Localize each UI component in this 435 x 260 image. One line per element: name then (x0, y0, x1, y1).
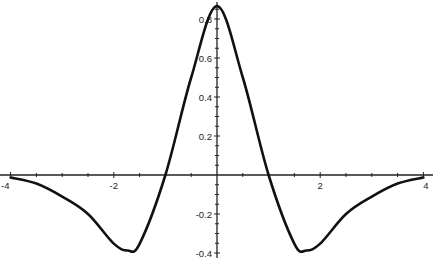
x-tick-label: 2 (318, 180, 323, 191)
x-tick-label: -2 (110, 180, 118, 191)
x-tick-label: -4 (1, 180, 9, 191)
y-tick-label: -0.4 (196, 248, 212, 259)
x-tick-label: 4 (423, 180, 428, 191)
y-tick-label: 0.2 (199, 131, 212, 142)
chart-plot: -4-2240.80.60.40.2-0.2-0.4 (0, 0, 435, 260)
y-tick-label: -0.2 (196, 209, 212, 220)
y-tick-label: 0.4 (199, 92, 212, 103)
axes (0, 2, 433, 258)
y-tick-label: 0.6 (199, 53, 212, 64)
